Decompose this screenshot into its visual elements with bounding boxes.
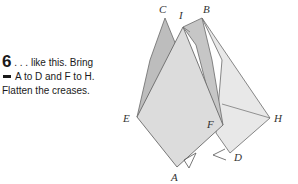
- front-kite-face: [137, 27, 223, 167]
- label-a: A: [170, 171, 178, 183]
- origami-diagram: C I B E F H A D: [0, 0, 298, 184]
- label-c: C: [159, 3, 167, 15]
- label-i: I: [178, 9, 184, 21]
- label-f: F: [206, 118, 214, 130]
- label-h: H: [273, 112, 283, 124]
- label-e: E: [122, 112, 130, 124]
- label-b: B: [203, 3, 210, 15]
- label-d: D: [233, 151, 242, 163]
